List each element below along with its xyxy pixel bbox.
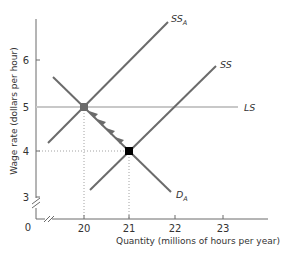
ssa-curve	[48, 22, 168, 143]
y-axis-break	[32, 198, 40, 208]
x-tick-23: 23	[217, 223, 230, 234]
ss-label: SS	[220, 59, 232, 70]
movement-arrows	[89, 111, 124, 144]
y-axis-title: Wage rate (dollars per hour)	[9, 47, 19, 175]
y-tick-6: 6	[23, 55, 29, 66]
ls-label: LS	[244, 102, 255, 113]
x-tick-22: 22	[169, 223, 182, 234]
x-axis-title: Quantity (millions of hours per year)	[116, 236, 280, 246]
dotted-guides	[36, 107, 129, 219]
da-curve	[53, 77, 171, 192]
x-ticks	[84, 215, 223, 219]
equilibrium-point-20-5	[80, 103, 88, 111]
initial-point-21-4	[125, 147, 133, 155]
y-tick-5: 5	[23, 102, 29, 113]
y-tick-3: 3	[23, 192, 29, 203]
y-tick-4: 4	[23, 146, 29, 157]
x-tick-21: 21	[123, 223, 136, 234]
da-label: DA	[176, 189, 188, 203]
ss-curve	[90, 66, 216, 190]
origin-label: 0	[25, 222, 31, 233]
x-tick-20: 20	[78, 223, 91, 234]
ssa-label: SSA	[171, 13, 187, 27]
wage-chart: 6 5 4 3 0 20 21 22 23 Wage rate (dollars…	[0, 0, 281, 257]
y-ticks	[36, 60, 40, 197]
